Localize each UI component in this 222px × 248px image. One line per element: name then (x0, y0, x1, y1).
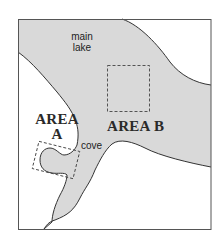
area-a-label-line2: A (34, 127, 80, 142)
main-lake-label: main lake (62, 31, 102, 53)
main-lake-label-line1: main (62, 31, 102, 42)
main-lake-label-line2: lake (62, 42, 102, 53)
cove-label: cove (81, 140, 102, 151)
area-a-label: AREA A (34, 112, 80, 142)
area-b-label: AREA B (107, 119, 164, 134)
area-a-label-line1: AREA (34, 112, 80, 127)
